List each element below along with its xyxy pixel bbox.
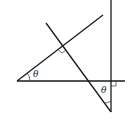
theta-label-bottom: θ	[101, 85, 107, 95]
angle-arc-bottom	[105, 101, 112, 103]
right-angle-mark-upper	[59, 50, 66, 53]
geometry-diagram: θ θ	[0, 0, 133, 124]
transversal-line	[46, 23, 111, 112]
right-angle-mark-lower	[111, 81, 116, 86]
inclined-line	[17, 15, 103, 81]
theta-label-left: θ	[33, 69, 39, 79]
angle-arc-left	[27, 73, 30, 81]
